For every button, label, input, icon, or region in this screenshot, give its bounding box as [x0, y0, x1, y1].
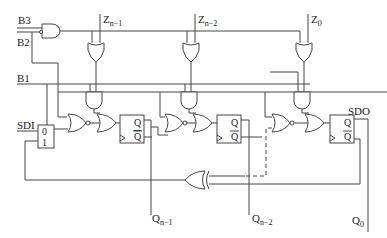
flip-flop-2: Q Q	[217, 115, 241, 143]
svg-text:Qn−2: Qn−2	[252, 212, 272, 227]
label-b1: B1	[17, 72, 30, 84]
svg-text:Q: Q	[231, 117, 239, 128]
and-gate-mid-1	[86, 92, 102, 109]
svg-text:Qn−1: Qn−1	[152, 212, 172, 227]
svg-text:Q: Q	[134, 131, 142, 142]
svg-text:Q: Q	[344, 131, 352, 142]
circuit-diagram: B3 B2 B1 SDI SDO Zn−1 Zn−2 Z0 Qn−1 Qn−2 …	[0, 0, 387, 238]
svg-text:Q: Q	[344, 117, 352, 128]
svg-text:Q: Q	[231, 131, 239, 142]
or-gate-2	[183, 43, 199, 62]
xor-gate-feedback	[185, 171, 209, 189]
nor-gate-3	[272, 114, 294, 132]
and-gate-mid-2	[181, 92, 197, 109]
nor-gate-2	[165, 114, 187, 132]
and-gate-mid-3	[294, 92, 310, 109]
svg-text:Q: Q	[134, 117, 142, 128]
label-sdi: SDI	[17, 119, 35, 131]
svg-text:Q0: Q0	[352, 214, 364, 229]
label-z-n-2: Zn−2	[198, 13, 217, 28]
label-b2: B2	[17, 36, 30, 48]
label-q-n-1: Qn−1	[152, 212, 172, 227]
nor-gate-1	[68, 114, 90, 132]
label-b3: B3	[18, 14, 31, 26]
label-z-0: Z0	[311, 13, 322, 28]
label-q-n-2: Qn−2	[252, 212, 272, 227]
or-gate-3	[296, 43, 312, 62]
flip-flop-1: Q Q	[120, 115, 144, 143]
svg-text:0: 0	[42, 126, 47, 137]
svg-text:Zn−2: Zn−2	[198, 13, 217, 28]
svg-text:Zn−1: Zn−1	[103, 13, 122, 28]
svg-text:1: 1	[42, 137, 47, 148]
or-gate-1	[88, 43, 104, 62]
label-z-n-1: Zn−1	[103, 13, 122, 28]
svg-text:Z0: Z0	[311, 13, 322, 28]
mux: 0 1	[38, 125, 54, 148]
and-gate-b3-b2	[40, 24, 61, 38]
label-q-0: Q0	[352, 214, 364, 229]
flip-flop-3: Q Q	[330, 115, 354, 143]
